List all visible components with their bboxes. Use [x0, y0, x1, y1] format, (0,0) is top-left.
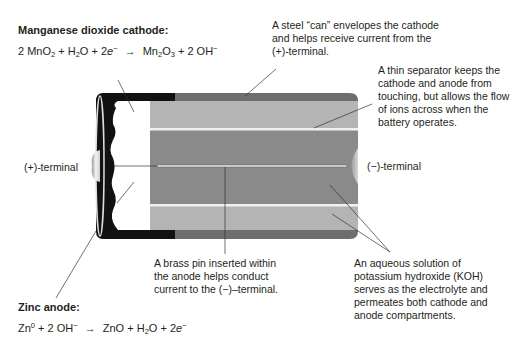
callout-steel-can: A steel “can” envelopes the cathode and … [272, 19, 439, 58]
callout-brass-pin: A brass pin inserted within the anode he… [154, 257, 278, 296]
cathode-equation: 2 MnO2 + H2O + 2e− → Mn2O3 + 2 OH− [18, 45, 218, 58]
leader-can [245, 69, 276, 96]
leader-anode [56, 231, 96, 298]
positive-terminal-bump [92, 150, 100, 182]
arrow-icon: → [85, 322, 96, 334]
separator-top [150, 128, 358, 131]
cathode-title: Manganese dioxide cathode: [18, 24, 168, 37]
anode-equation: Zn0 + 2 OH− → ZnO + H2O + 2e− [18, 322, 187, 335]
arrow-icon: → [125, 45, 136, 57]
cathode-bottom [150, 205, 358, 230]
separator-bottom [150, 204, 358, 207]
cathode-top [150, 101, 358, 129]
leader-anode-inner [117, 182, 134, 203]
callout-separator: A thin separator keeps the cathode and a… [378, 64, 509, 129]
brass-pin [157, 165, 347, 168]
callout-electrolyte: An aqueous solution of potassium hydroxi… [354, 257, 488, 322]
anode-title: Zinc anode: [18, 301, 80, 314]
negative-terminal-label: (−)-terminal [367, 160, 421, 173]
positive-terminal-label: (+)-terminal [24, 161, 78, 174]
